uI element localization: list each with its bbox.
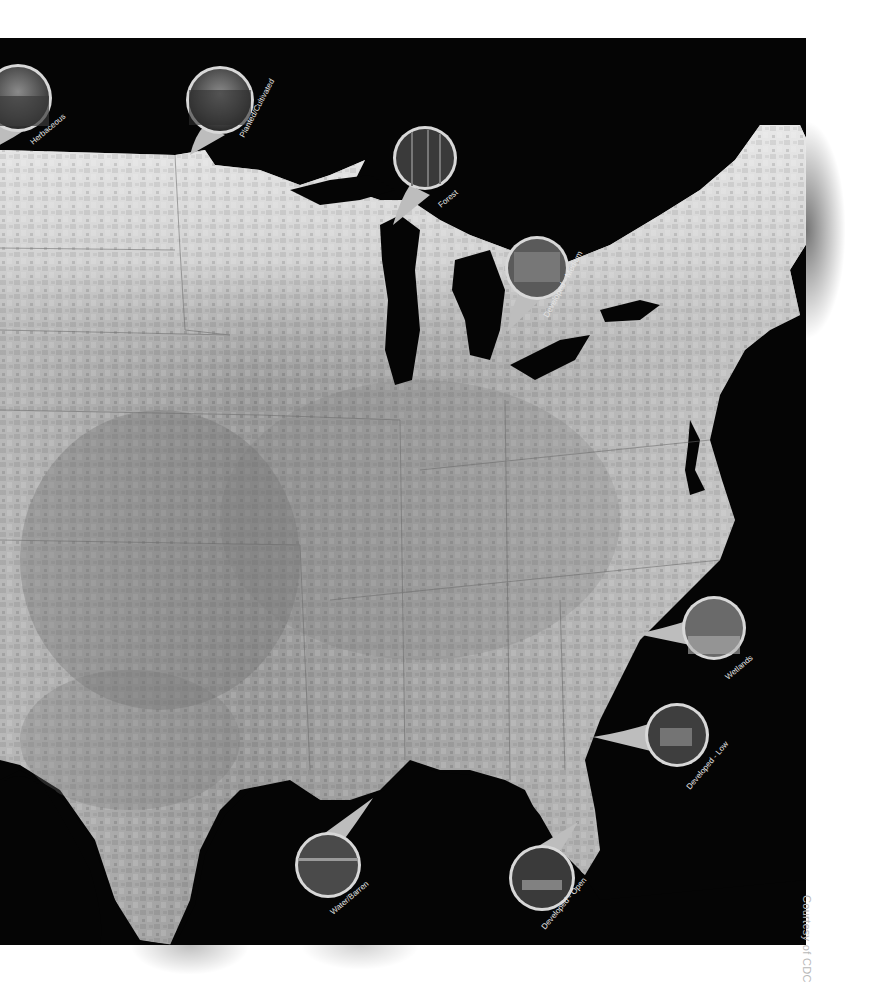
us-land-cover-map: Herbaceous Planted/Cultivated Forest Dev…: [0, 38, 806, 945]
panel-drop-shadow: [130, 945, 250, 975]
callout-developed-low[interactable]: Developed - Low: [593, 703, 730, 791]
callout-label: Wetlands: [724, 653, 755, 681]
trees-photo: [396, 129, 454, 187]
panel-drop-shadow: [806, 120, 846, 340]
callout-herbaceous[interactable]: Herbaceous: [0, 64, 67, 150]
callout-planted-cultivated[interactable]: Planted/Cultivated: [186, 66, 276, 155]
image-credit: Courtesy of CDC: [801, 895, 813, 983]
panel-drop-shadow: [300, 945, 420, 970]
map-panel: Herbaceous Planted/Cultivated Forest Dev…: [0, 38, 806, 945]
callout-label: Forest: [437, 188, 461, 210]
water-shore-photo: [298, 835, 358, 895]
callout-forest[interactable]: Forest: [393, 126, 460, 225]
